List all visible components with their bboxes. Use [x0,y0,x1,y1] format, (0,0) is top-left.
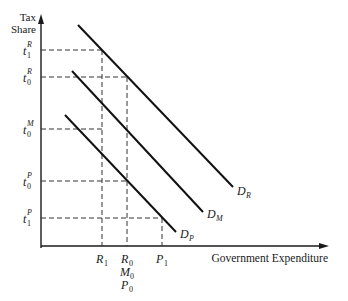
svg-text:0: 0 [27,130,31,139]
svg-text:D: D [236,184,246,198]
svg-text:0: 0 [27,182,31,191]
y-axis-arrow-icon [38,14,44,24]
x-tick-P1: P 1 [155,252,168,268]
demand-diagram: Tax Share t 1 R t 0 R t 0 M t 0 P t 1 P … [0,0,348,301]
y-tick-t0P: t 0 P [23,171,32,191]
y-tick-t0M: t 0 M [23,119,35,139]
y-tick-t1R: t 1 R [23,40,32,60]
svg-text:P: P [120,278,129,292]
svg-text:1: 1 [27,219,31,228]
y-tick-t0R: t 0 R [23,67,32,87]
svg-text:R: R [120,252,129,266]
svg-text:0: 0 [129,285,133,294]
svg-text:0: 0 [130,272,134,281]
svg-text:P: P [155,252,164,266]
svg-text:P: P [188,234,194,243]
svg-text:1: 1 [104,259,108,268]
svg-text:0: 0 [27,78,31,87]
svg-text:1: 1 [27,51,31,60]
x-tick-R1: R 1 [95,252,108,268]
y-axis-title-line2: Share [11,23,36,35]
curve-d-r [78,25,233,187]
curve-d-p [65,115,176,232]
svg-text:R: R [26,40,32,49]
label-d-p: D P [179,227,194,243]
y-tick-t1P: t 1 P [23,208,32,228]
y-axis-title-line1: Tax [20,11,37,23]
x-axis-title: Government Expenditure [211,252,328,265]
svg-text:P: P [26,171,32,180]
label-d-m: D M [206,207,224,223]
svg-text:D: D [206,207,216,221]
svg-text:R: R [95,252,104,266]
svg-text:M: M [215,214,224,223]
x-axis-arrow-icon [319,243,329,249]
svg-text:D: D [179,227,189,241]
label-d-r: D R [236,184,251,200]
svg-text:P: P [26,208,32,217]
svg-text:R: R [245,191,251,200]
svg-text:M: M [26,119,35,128]
svg-text:1: 1 [164,259,168,268]
svg-text:R: R [26,67,32,76]
